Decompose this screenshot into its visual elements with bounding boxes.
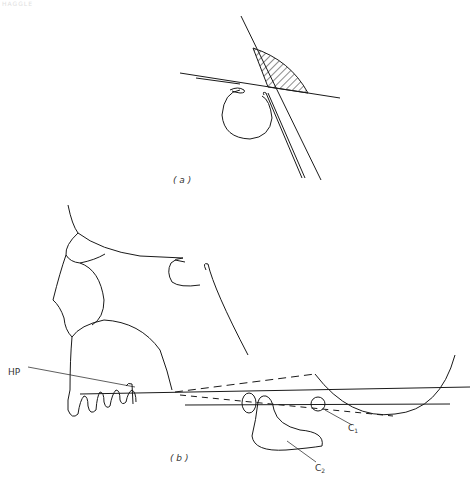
panel-b-drawing xyxy=(28,205,470,462)
front-vertical xyxy=(70,337,72,390)
c2-sub: 2 xyxy=(321,467,325,474)
c2-annotation: C2 xyxy=(315,463,325,473)
dashed-line-upper xyxy=(175,374,315,392)
panel-a-drawing xyxy=(180,16,340,180)
occlusal-line-upper xyxy=(80,387,470,394)
hp-annotation: HP xyxy=(8,367,20,377)
c2-leader-line xyxy=(287,441,316,462)
sella-tip xyxy=(175,260,185,262)
figure-canvas xyxy=(0,0,470,486)
c1-annotation: C1 xyxy=(348,423,358,433)
palate-dome xyxy=(72,320,172,390)
panel-a-horizontal-line xyxy=(180,73,340,98)
panel-a-label: ( a ) xyxy=(173,175,191,185)
hp-leader-line xyxy=(28,367,135,387)
face-profile xyxy=(53,255,72,337)
descending-curve xyxy=(204,264,248,355)
orbit-curve xyxy=(80,263,104,325)
c1-sub: 1 xyxy=(354,427,358,434)
panel-a-loop xyxy=(222,90,272,139)
dashed-line-lower xyxy=(180,395,393,416)
skull-upper-outline xyxy=(68,205,183,258)
bowl-curve xyxy=(315,355,455,415)
panel-a-hatched-wedge xyxy=(253,48,308,93)
oval-left xyxy=(242,393,256,413)
panel-b-label: ( b ) xyxy=(170,453,188,463)
nasal-outline xyxy=(66,233,105,263)
panel-a-steep-line xyxy=(241,16,321,180)
occlusal-line-lower xyxy=(185,404,450,405)
